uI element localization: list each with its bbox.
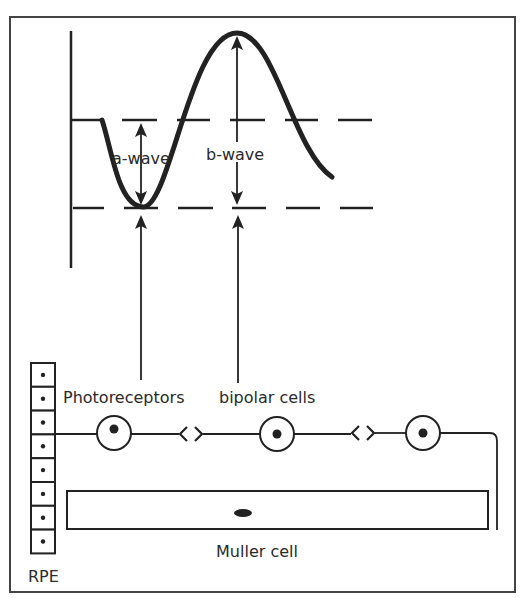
rpe-nucleus (41, 420, 45, 424)
rpe-nucleus (41, 516, 45, 520)
muller-cell-body (67, 491, 488, 529)
chevron-right-icon (367, 426, 374, 440)
muller-cell (67, 491, 488, 529)
origin-arrow-a-wave (135, 215, 147, 380)
erg-diagram: a-wave b-wave RPE Photoreceptors bipolar… (0, 0, 525, 598)
bipolar-cells-label: bipolar cells (219, 388, 315, 407)
rpe-nucleus (41, 373, 45, 377)
rpe-label: RPE (28, 567, 59, 586)
cell-nucleus (273, 430, 282, 439)
cell-nucleus (419, 429, 428, 438)
photoreceptor-cell (97, 416, 131, 450)
a-wave-label: a-wave (112, 149, 170, 168)
chevron-left-icon (352, 426, 359, 440)
cell-nucleus (110, 425, 119, 434)
rpe-nucleus (41, 492, 45, 496)
muller-cell-label: Muller cell (216, 542, 298, 561)
rpe-nucleus (41, 539, 45, 543)
bipolar-cell (260, 417, 294, 451)
b-wave-label: b-wave (206, 145, 264, 164)
rpe-nucleus (41, 468, 45, 472)
rpe-column (31, 363, 55, 553)
photoreceptors-label: Photoreceptors (63, 388, 184, 407)
synapse-icon (352, 426, 374, 440)
muller-nucleus (234, 509, 252, 517)
rpe-nucleus (41, 397, 45, 401)
rpe-nucleus (41, 444, 45, 448)
chevron-right-icon (195, 427, 202, 441)
origin-arrows (135, 215, 244, 383)
retinal-cell-schematic: RPE Photoreceptors bipolar cells Muller … (28, 363, 497, 586)
chevron-left-icon (180, 427, 187, 441)
origin-arrow-b-wave (232, 215, 244, 383)
synapse-icon (180, 427, 202, 441)
ganglion-cell (406, 416, 440, 450)
erg-waveform-plot: a-wave b-wave (71, 31, 373, 268)
